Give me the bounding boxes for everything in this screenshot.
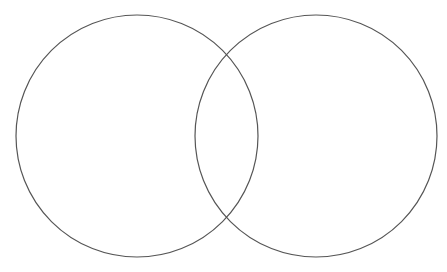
- venn-diagram: [0, 0, 447, 272]
- venn-circle-left: [16, 15, 258, 257]
- venn-circle-right: [195, 15, 437, 257]
- venn-diagram-canvas: [0, 0, 447, 272]
